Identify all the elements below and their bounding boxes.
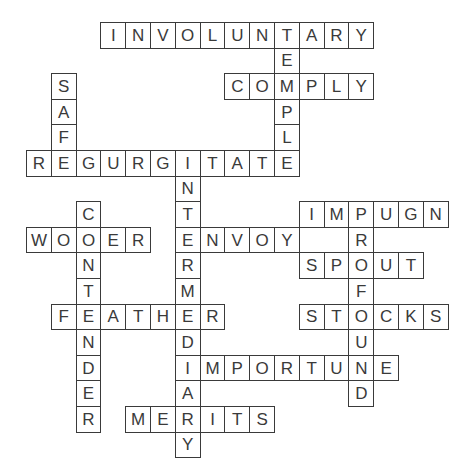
crossword-cell[interactable]: O [348,252,374,279]
crossword-cell[interactable]: N [423,201,449,228]
crossword-cell[interactable]: E [274,48,300,75]
crossword-cell[interactable]: U [373,201,399,228]
crossword-cell[interactable]: N [348,355,374,382]
crossword-cell[interactable]: I [175,355,201,382]
crossword-cell[interactable]: H [150,304,176,331]
crossword-cell[interactable]: D [76,355,102,382]
crossword-cell[interactable]: R [175,406,201,433]
crossword-cell[interactable]: I [200,406,226,433]
crossword-cell[interactable]: N [125,22,151,49]
crossword-cell[interactable]: F [51,304,77,331]
crossword-cell[interactable]: A [51,99,77,126]
crossword-cell[interactable]: P [348,201,374,228]
crossword-cell[interactable]: O [76,227,102,254]
crossword-cell[interactable]: T [249,150,275,177]
crossword-cell[interactable]: C [76,201,102,228]
crossword-cell[interactable]: G [150,150,176,177]
crossword-cell[interactable]: T [76,278,102,305]
crossword-cell[interactable]: O [348,304,374,331]
crossword-cell[interactable]: I [299,201,325,228]
crossword-cell[interactable]: F [348,278,374,305]
crossword-cell[interactable]: E [175,227,201,254]
crossword-cell[interactable]: R [26,150,52,177]
crossword-cell[interactable]: A [299,22,325,49]
crossword-cell[interactable]: E [274,150,300,177]
crossword-cell[interactable]: L [324,73,350,100]
crossword-cell[interactable]: I [100,22,126,49]
crossword-cell[interactable]: M [324,201,350,228]
crossword-cell[interactable]: E [175,304,201,331]
crossword-cell[interactable]: U [348,329,374,356]
crossword-cell[interactable]: G [76,150,102,177]
crossword-cell[interactable]: T [324,304,350,331]
crossword-cell[interactable]: D [348,380,374,407]
crossword-cell[interactable]: S [423,304,449,331]
crossword-cell[interactable]: T [299,355,325,382]
crossword-cell[interactable]: R [76,406,102,433]
crossword-cell[interactable]: D [175,329,201,356]
crossword-cell[interactable]: S [249,406,275,433]
crossword-cell[interactable]: N [175,176,201,203]
crossword-cell[interactable]: Y [274,227,300,254]
crossword-cell[interactable]: Y [348,22,374,49]
crossword-cell[interactable]: E [76,380,102,407]
crossword-cell[interactable]: M [200,355,226,382]
crossword-cell[interactable]: U [373,252,399,279]
crossword-cell[interactable]: K [398,304,424,331]
crossword-cell[interactable]: T [200,150,226,177]
crossword-cell[interactable]: E [76,304,102,331]
crossword-cell[interactable]: R [348,227,374,254]
crossword-cell[interactable]: P [324,252,350,279]
crossword-cell[interactable]: S [299,252,325,279]
crossword-cell[interactable]: U [100,150,126,177]
crossword-cell[interactable]: T [175,201,201,228]
crossword-cell[interactable]: W [26,227,52,254]
crossword-cell[interactable]: E [373,355,399,382]
crossword-cell[interactable]: P [274,99,300,126]
crossword-cell[interactable]: O [249,73,275,100]
crossword-cell[interactable]: T [398,252,424,279]
crossword-cell[interactable]: O [51,227,77,254]
crossword-cell[interactable]: L [200,22,226,49]
crossword-cell[interactable]: O [249,355,275,382]
crossword-cell[interactable]: V [150,22,176,49]
crossword-cell[interactable]: Y [175,432,201,459]
crossword-cell[interactable]: A [175,380,201,407]
crossword-cell[interactable]: E [100,227,126,254]
crossword-cell[interactable]: P [224,355,250,382]
crossword-cell[interactable]: T [274,22,300,49]
crossword-cell[interactable]: E [51,150,77,177]
crossword-cell[interactable]: U [224,22,250,49]
crossword-cell[interactable]: C [373,304,399,331]
crossword-cell[interactable]: F [51,124,77,151]
crossword-cell[interactable]: G [398,201,424,228]
crossword-cell[interactable]: R [125,227,151,254]
crossword-cell[interactable]: N [249,22,275,49]
crossword-cell[interactable]: V [224,227,250,254]
crossword-cell[interactable]: A [100,304,126,331]
crossword-cell[interactable]: N [76,252,102,279]
crossword-cell[interactable]: S [51,73,77,100]
crossword-cell[interactable]: E [150,406,176,433]
crossword-cell[interactable]: U [324,355,350,382]
crossword-cell[interactable]: C [224,73,250,100]
crossword-cell[interactable]: R [274,355,300,382]
crossword-cell[interactable]: T [125,304,151,331]
crossword-cell[interactable]: I [175,150,201,177]
crossword-cell[interactable]: N [200,227,226,254]
crossword-cell[interactable]: O [175,22,201,49]
crossword-cell[interactable]: A [224,150,250,177]
crossword-cell[interactable]: M [175,278,201,305]
crossword-cell[interactable]: R [324,22,350,49]
crossword-cell[interactable]: O [249,227,275,254]
crossword-cell[interactable]: Y [348,73,374,100]
crossword-cell[interactable]: L [274,124,300,151]
crossword-cell[interactable]: R [175,252,201,279]
crossword-cell[interactable]: M [274,73,300,100]
crossword-cell[interactable]: R [200,304,226,331]
crossword-cell[interactable]: P [299,73,325,100]
crossword-cell[interactable]: R [125,150,151,177]
crossword-cell[interactable]: T [224,406,250,433]
crossword-cell[interactable]: M [125,406,151,433]
crossword-cell[interactable]: S [299,304,325,331]
